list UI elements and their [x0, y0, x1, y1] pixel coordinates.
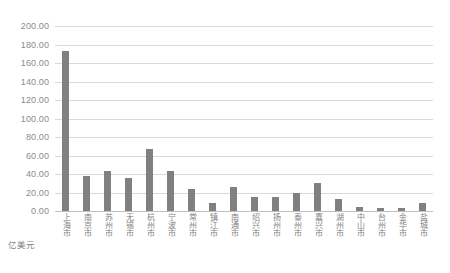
bar-slot	[391, 26, 412, 211]
x-axis-label-slot: 金华市	[391, 213, 412, 271]
bar-slot	[244, 26, 265, 211]
bar-slot	[76, 26, 97, 211]
x-axis-category-label: 南通市	[230, 213, 238, 237]
bar	[83, 176, 90, 211]
bar	[62, 51, 69, 211]
x-axis-category-label: 宁波市	[167, 213, 175, 237]
bar	[272, 197, 279, 211]
bar	[125, 178, 132, 211]
bar-slot	[265, 26, 286, 211]
x-axis-label-slot: 镇江市	[202, 213, 223, 271]
x-axis-label-slot: 泰州市	[286, 213, 307, 271]
x-axis-category-label: 湖州市	[335, 213, 343, 237]
bar	[398, 208, 405, 211]
x-axis-category-label: 台州市	[377, 213, 385, 237]
x-axis-category-label: 嘉兴市	[314, 213, 322, 237]
y-axis-tick: 200.00	[0, 21, 49, 31]
x-axis-category-label: 绍兴市	[251, 213, 259, 237]
bar-slot	[160, 26, 181, 211]
y-axis-tick: 160.00	[0, 58, 49, 68]
y-axis-tick: 20.00	[0, 188, 49, 198]
x-axis-label-slot: 绍兴市	[244, 213, 265, 271]
y-axis-tick: 40.00	[0, 169, 49, 179]
x-axis-label-slot: 南京市	[76, 213, 97, 271]
y-axis-tick: 100.00	[0, 114, 49, 124]
bar	[167, 171, 174, 211]
x-axis-category-label: 常州市	[188, 213, 196, 237]
bar-slot	[349, 26, 370, 211]
bar	[230, 187, 237, 211]
bar-slot	[97, 26, 118, 211]
y-axis-tick: 180.00	[0, 40, 49, 50]
x-axis-label-slot: 嘉兴市	[307, 213, 328, 271]
bar-slot	[202, 26, 223, 211]
x-axis-label-slot: 扬州市	[265, 213, 286, 271]
y-axis-labels: 0.0020.0040.0060.0080.00100.00120.00140.…	[0, 0, 49, 211]
bar-slot	[181, 26, 202, 211]
y-axis-tick: 140.00	[0, 77, 49, 87]
bar	[209, 203, 216, 211]
y-axis-tick: 60.00	[0, 151, 49, 161]
x-axis-category-label: 上海市	[62, 213, 70, 237]
x-axis-label-slot: 常州市	[181, 213, 202, 271]
bar	[377, 208, 384, 211]
bar-slot	[286, 26, 307, 211]
x-axis-category-label: 南京市	[83, 213, 91, 237]
bar-slot	[412, 26, 433, 211]
x-axis-category-label: 镇江市	[209, 213, 217, 237]
bar	[335, 199, 342, 211]
x-axis-label-slot: 宁波市	[160, 213, 181, 271]
x-axis-category-label: 中山市	[356, 213, 364, 237]
bar-chart: 0.0020.0040.0060.0080.00100.00120.00140.…	[0, 0, 450, 273]
x-axis-labels: 上海市南京市苏州市无锡市杭州市宁波市常州市镇江市南通市绍兴市扬州市泰州市嘉兴市湖…	[55, 213, 433, 271]
bar-slot	[118, 26, 139, 211]
bar-slot	[370, 26, 391, 211]
x-axis-label-slot: 上海市	[55, 213, 76, 271]
x-axis-category-label: 盐城市	[419, 213, 427, 237]
bar-slot	[55, 26, 76, 211]
x-axis-category-label: 杭州市	[146, 213, 154, 237]
x-axis-label-slot: 台州市	[370, 213, 391, 271]
x-axis-category-label: 苏州市	[104, 213, 112, 237]
x-axis-label-slot: 苏州市	[97, 213, 118, 271]
x-axis-label-slot: 盐城市	[412, 213, 433, 271]
axis-baseline	[55, 211, 433, 212]
bar-series	[55, 26, 433, 211]
bar	[251, 197, 258, 211]
bar-slot	[223, 26, 244, 211]
unit-label: 亿美元	[8, 238, 35, 250]
x-axis-label-slot: 杭州市	[139, 213, 160, 271]
bar	[104, 171, 111, 211]
x-axis-category-label: 无锡市	[125, 213, 133, 237]
y-axis-tick: 0.00	[0, 206, 49, 216]
bar	[293, 193, 300, 211]
x-axis-label-slot: 湖州市	[328, 213, 349, 271]
bar-slot	[328, 26, 349, 211]
x-axis-category-label: 扬州市	[272, 213, 280, 237]
bar	[314, 183, 321, 211]
x-axis-label-slot: 中山市	[349, 213, 370, 271]
plot-area	[55, 26, 433, 211]
bar	[419, 203, 426, 211]
x-axis-label-slot: 南通市	[223, 213, 244, 271]
x-axis-category-label: 泰州市	[293, 213, 301, 237]
bar	[188, 189, 195, 211]
x-axis-category-label: 金华市	[398, 213, 406, 237]
x-axis-label-slot: 无锡市	[118, 213, 139, 271]
bar	[146, 149, 153, 211]
bar-slot	[139, 26, 160, 211]
y-axis-tick: 80.00	[0, 132, 49, 142]
y-axis-tick: 120.00	[0, 95, 49, 105]
bar	[356, 207, 363, 211]
bar-slot	[307, 26, 328, 211]
